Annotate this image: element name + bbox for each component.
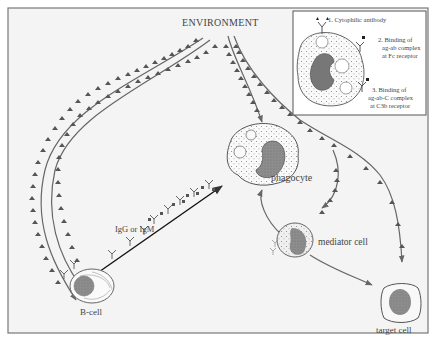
svg-text:1. Cytophilic antibody: 1. Cytophilic antibody [328,16,387,23]
svg-text:2. Binding of: 2. Binding of [378,36,413,43]
b-cell [70,269,114,303]
phagocyte-label: phagocyte [271,172,313,183]
inset-item-1-number: 1. [328,16,333,23]
target-cell-label: target cell [376,325,412,335]
inset-phagocyte-receptors: 1. Cytophilic antibody 2. Binding of ag-… [293,11,426,115]
inset-item-3-number: 3. [372,86,377,93]
mediator-cell-label: mediator cell [318,237,368,247]
inset-item-2-number: 2. [378,36,383,43]
target-cell [381,284,421,323]
inset-item-2-line3: at Fc receptor [382,52,419,59]
inset-item-2-line1: Binding of [385,36,414,43]
inset-item-3-line3: at C3b receptor [370,102,411,109]
inset-item-1-text: Cytophilic antibody [335,16,388,23]
antibody-label: IgG or IgM [115,224,155,234]
svg-text:3. Binding of: 3. Binding of [372,86,407,93]
inset-item-2-line2: ag-ab complex [382,44,421,51]
immune-response-diagram: ENVIRONMENT [0,0,437,341]
inset-item-3-line1: Binding of [379,86,408,93]
inset-item-3-line2: ag-ab-C complex [368,94,414,101]
b-cell-label: B-cell [80,307,102,317]
environment-label: ENVIRONMENT [182,17,259,28]
